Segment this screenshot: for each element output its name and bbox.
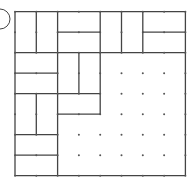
grid-dot <box>163 52 165 54</box>
grid-dot <box>142 11 144 13</box>
grid-dot <box>163 154 165 156</box>
grid-dot <box>99 52 101 54</box>
grid-dot <box>121 154 123 156</box>
grid-dot <box>163 72 165 74</box>
grid-dot <box>142 31 144 33</box>
grid-dot <box>57 134 59 136</box>
figure-label-circle <box>0 9 10 29</box>
grid-dot <box>35 72 37 74</box>
grid-dot <box>14 134 16 136</box>
grid-dot <box>121 11 123 13</box>
grid-dot <box>184 11 186 13</box>
grid-dot <box>142 72 144 74</box>
grid-dot <box>57 93 59 95</box>
grid-dot <box>99 11 101 13</box>
grid-dot <box>163 93 165 95</box>
grid-dot <box>99 72 101 74</box>
grid-dot <box>121 113 123 115</box>
grid-dot <box>57 113 59 115</box>
grid-dot <box>57 31 59 33</box>
grid-dot <box>184 93 186 95</box>
grid-dot <box>14 72 16 74</box>
grid-dot <box>163 134 165 136</box>
grid-dot <box>35 93 37 95</box>
grid-dot <box>35 52 37 54</box>
grid-dot <box>121 175 123 177</box>
grid-dot <box>57 175 59 177</box>
grid-dot <box>35 175 37 177</box>
grid-dot <box>163 113 165 115</box>
grid-dot <box>184 113 186 115</box>
grid-dot <box>35 11 37 13</box>
grid-dot <box>142 175 144 177</box>
grid-dot <box>35 134 37 136</box>
grid-dot <box>121 93 123 95</box>
grid-dot <box>184 31 186 33</box>
grid-dot <box>184 154 186 156</box>
grid-dot <box>142 113 144 115</box>
grid-dot <box>14 31 16 33</box>
domino-tiling-diagram <box>0 0 196 178</box>
grid-dot <box>78 31 80 33</box>
grid-dot <box>78 113 80 115</box>
grid-dot <box>78 154 80 156</box>
grid-dot <box>99 113 101 115</box>
grid-dot <box>14 93 16 95</box>
grid-dot <box>142 52 144 54</box>
grid-dot <box>35 31 37 33</box>
grid-dot <box>142 154 144 156</box>
grid-dot <box>163 175 165 177</box>
grid-dot <box>121 72 123 74</box>
grid-dot <box>99 31 101 33</box>
grid-dot <box>99 93 101 95</box>
grid-dot <box>78 134 80 136</box>
grid-dot <box>142 93 144 95</box>
grid-dot <box>14 154 16 156</box>
grid-dot <box>35 113 37 115</box>
grid-dot <box>78 175 80 177</box>
grid-dot <box>57 154 59 156</box>
grid-dot <box>163 31 165 33</box>
grid-dot <box>121 31 123 33</box>
grid-dot <box>14 11 16 13</box>
grid-dot <box>35 154 37 156</box>
grid-dot <box>14 175 16 177</box>
grid-dot <box>99 175 101 177</box>
grid-dot <box>184 52 186 54</box>
grid-dot <box>57 72 59 74</box>
grid-dot <box>14 52 16 54</box>
grid-dot <box>121 52 123 54</box>
grid-dot <box>99 154 101 156</box>
grid-dot <box>142 134 144 136</box>
grid-dot <box>99 134 101 136</box>
grid-dot <box>14 113 16 115</box>
grid-dot <box>121 134 123 136</box>
grid-dot <box>163 11 165 13</box>
grid-dot <box>78 52 80 54</box>
grid-dot <box>57 52 59 54</box>
grid-dot <box>57 11 59 13</box>
grid-dot <box>78 72 80 74</box>
grid-dot <box>184 72 186 74</box>
grid-dot <box>78 11 80 13</box>
grid-dot <box>78 93 80 95</box>
grid-dot <box>184 175 186 177</box>
grid-dot <box>184 134 186 136</box>
